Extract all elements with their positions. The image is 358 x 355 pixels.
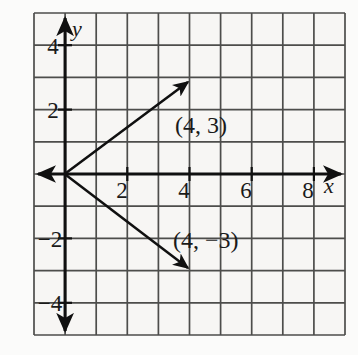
x-axis-name: x	[323, 173, 334, 198]
y-tick-label-neg4: −4	[38, 291, 63, 316]
y-tick-label-neg2: −2	[38, 227, 62, 252]
coordinate-plane-figure: 2 4 6 8 4 2 −2 −4 y x (4, 3) (4, −3)	[0, 0, 358, 355]
y-axis-name: y	[70, 16, 82, 41]
point-label-4-3: (4, 3)	[175, 112, 227, 138]
y-tick-label-2: 2	[47, 98, 59, 123]
point-label-4-neg3: (4, −3)	[173, 227, 239, 253]
x-tick-label-2: 2	[116, 178, 128, 203]
y-tick-label-4: 4	[47, 34, 59, 59]
x-tick-label-8: 8	[302, 178, 314, 203]
x-tick-label-6: 6	[240, 178, 252, 203]
x-tick-label-4: 4	[178, 178, 190, 203]
plot-area: 2 4 6 8 4 2 −2 −4 y x (4, 3) (4, −3)	[0, 0, 358, 355]
